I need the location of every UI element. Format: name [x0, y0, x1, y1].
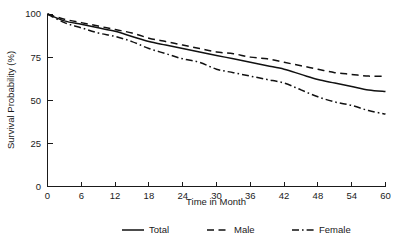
x-axis-title: Time in Month — [186, 196, 246, 207]
x-tick-label: 60 — [380, 190, 391, 201]
chart-canvas: Survival Probability (%) 0255075100 0612… — [0, 0, 398, 244]
y-tick-label: 100 — [25, 8, 41, 19]
y-tick-mark-group — [48, 14, 53, 143]
x-tick-label: 48 — [313, 190, 324, 201]
y-tick-label: 50 — [30, 95, 41, 106]
legend-label-total: Total — [149, 224, 169, 235]
x-tick-label: 18 — [144, 190, 155, 201]
y-tick-label-group: 0255075100 — [25, 8, 41, 192]
x-tick-label: 0 — [45, 190, 50, 201]
y-tick-label: 25 — [30, 138, 41, 149]
legend-label-male: Male — [234, 224, 255, 235]
y-tick-label: 75 — [30, 52, 41, 63]
x-tick-label: 42 — [279, 190, 290, 201]
y-axis-title: Survival Probability (%) — [5, 51, 16, 149]
x-tick-label: 54 — [346, 190, 357, 201]
x-tick-mark-group — [81, 182, 385, 187]
x-tick-label: 36 — [245, 190, 256, 201]
x-tick-label: 12 — [110, 190, 121, 201]
data-series-group — [48, 14, 386, 114]
chart-legend: TotalMaleFemale — [122, 224, 351, 235]
survival-curve-figure: Survival Probability (%) 0255075100 0612… — [0, 0, 398, 244]
legend-label-female: Female — [319, 224, 351, 235]
series-line-female — [48, 14, 386, 114]
y-tick-label: 0 — [36, 181, 41, 192]
x-tick-label: 6 — [79, 190, 84, 201]
series-line-male — [48, 14, 386, 76]
